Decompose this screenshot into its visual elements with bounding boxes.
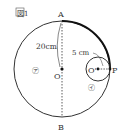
label-20cm: 20cm [36, 42, 57, 51]
center-O-dot [60, 67, 63, 70]
radius-brace-20cm [57, 23, 61, 67]
arc-A-to-P [62, 21, 110, 69]
label-O: O [54, 72, 61, 81]
figure-title: 図1 [17, 10, 28, 18]
label-B: B [58, 123, 64, 132]
label-5cm: 5 cm [72, 49, 90, 57]
diagram-figure: 図1 A 20cm 5 cm ㋐ O O' P ㋑ B [0, 0, 131, 135]
label-P: P [112, 66, 118, 75]
region-a-label: ㋐ [32, 67, 39, 75]
radius-leader-5cm [93, 53, 103, 66]
label-A: A [57, 10, 64, 19]
label-O-prime: O' [88, 66, 97, 75]
region-i-label: ㋑ [88, 84, 95, 92]
